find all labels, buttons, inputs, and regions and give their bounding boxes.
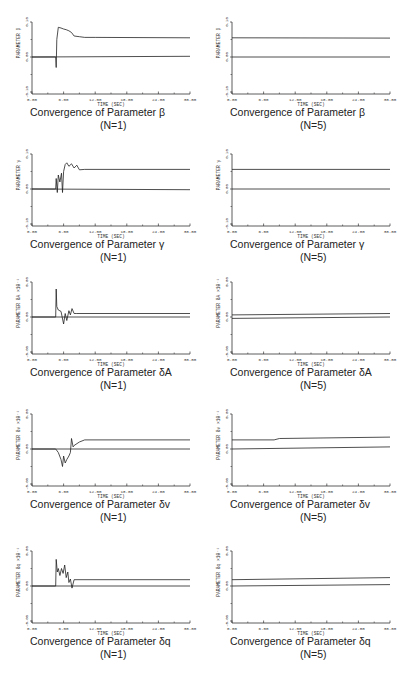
series-line-estimate: [32, 289, 190, 324]
x-tick-label: 24.00: [352, 627, 365, 631]
chart-svg: 0.006.0012.0018.0024.0030.00-0.100.000.1…: [208, 8, 397, 108]
chart-n-label: (N=1): [100, 119, 165, 131]
chart-svg: 0.006.0012.0018.0024.0030.00-5.000.005.0…: [208, 268, 397, 368]
x-tick-label: 30.00: [184, 98, 197, 102]
y-tick-label: 5.00: [25, 409, 29, 419]
x-tick-label: 6.00: [259, 490, 270, 494]
y-tick-label: -5.00: [25, 614, 29, 627]
y-tick-label: 0.00: [225, 184, 229, 194]
chart-panel: 0.006.0012.0018.0024.0030.00-5.000.005.0…: [8, 268, 198, 398]
y-tick-label: -5.00: [25, 477, 29, 490]
chart-title: Convergence of Parameter γ(N=1): [30, 238, 164, 263]
y-tick-label: -5.00: [25, 345, 29, 358]
y-tick-label: 0.00: [225, 581, 229, 591]
chart-n-label: (N=5): [300, 511, 370, 523]
x-tick-label: 6.00: [59, 98, 70, 102]
chart-n-label: (N=5): [300, 379, 372, 391]
x-tick-label: 24.00: [352, 358, 365, 362]
chart-title: Convergence of Parameter δq(N=1): [30, 635, 171, 660]
x-tick-label: 30.00: [384, 358, 397, 362]
chart-title: Convergence of Parameter β(N=5): [230, 106, 365, 131]
chart-panel: 0.006.0012.0018.0024.0030.00-5.000.005.0…: [208, 400, 397, 530]
y-tick-label: -5.00: [225, 345, 229, 358]
y-tick-label: 5.00: [225, 277, 229, 287]
x-tick-label: 24.00: [152, 490, 165, 494]
x-tick-label: 24.00: [352, 98, 365, 102]
chart-n-label: (N=1): [100, 511, 170, 523]
y-tick-label: 5.00: [25, 277, 29, 287]
chart-title: Convergence of Parameter δq(N=5): [230, 635, 371, 660]
series-line-reference: [232, 585, 390, 586]
series-line-estimate: [232, 578, 390, 580]
chart-svg: 0.006.0012.0018.0024.0030.00-0.100.000.1…: [8, 140, 198, 240]
x-tick-label: 6.00: [259, 230, 270, 234]
x-tick-label: 24.00: [152, 98, 165, 102]
x-tick-label: 6.00: [259, 627, 270, 631]
y-tick-label: 0.10: [25, 17, 29, 27]
chart-title-text: Convergence of Parameter δq: [230, 635, 371, 647]
chart-title-text: Convergence of Parameter γ: [230, 238, 364, 250]
y-tick-label: 0.10: [225, 149, 229, 159]
chart-svg: 0.006.0012.0018.0024.0030.00-5.000.005.0…: [8, 268, 198, 368]
y-tick-label: 0.00: [25, 312, 29, 322]
y-axis-label: PARAMETER δq ×10⁻¹: [216, 547, 221, 597]
chart-title: Convergence of Parameter δA(N=1): [30, 366, 172, 391]
x-tick-label: 6.00: [59, 490, 70, 494]
x-tick-label: 30.00: [184, 230, 197, 234]
series-line-estimate: [232, 437, 390, 440]
chart-n-label: (N=5): [300, 251, 364, 263]
y-tick-label: -0.10: [225, 217, 229, 230]
x-tick-label: 30.00: [184, 490, 197, 494]
x-tick-label: 6.00: [59, 230, 70, 234]
y-axis-label: PARAMETER δA ×10⁻¹: [216, 278, 221, 328]
series-line-estimate: [32, 163, 190, 193]
x-tick-label: 30.00: [184, 358, 197, 362]
y-axis-label: PARAMETER β: [216, 28, 221, 59]
y-tick-label: -5.00: [225, 614, 229, 627]
y-axis-label: PARAMETER γ: [16, 160, 21, 191]
y-tick-label: 0.00: [225, 52, 229, 62]
chart-title: Convergence of Parameter δv(N=1): [30, 498, 170, 523]
chart-title: Convergence of Parameter γ(N=5): [230, 238, 364, 263]
series-line-estimate: [32, 27, 190, 67]
x-tick-label: 24.00: [152, 230, 165, 234]
y-axis-label: PARAMETER δv ×10⁻¹: [16, 410, 21, 460]
chart-svg: 0.006.0012.0018.0024.0030.00-0.100.000.1…: [8, 8, 198, 108]
y-axis-label: PARAMETER β: [16, 28, 21, 59]
y-tick-label: 0.00: [25, 444, 29, 454]
x-tick-label: 30.00: [384, 230, 397, 234]
y-axis-label: PARAMETER δv ×10⁻¹: [216, 410, 221, 460]
series-line-estimate: [32, 559, 190, 588]
chart-svg: 0.006.0012.0018.0024.0030.00-0.100.000.1…: [208, 140, 397, 240]
chart-n-label: (N=5): [300, 119, 365, 131]
chart-n-label: (N=5): [300, 648, 371, 660]
y-tick-label: -0.10: [225, 85, 229, 98]
chart-title-text: Convergence of Parameter δv: [30, 498, 170, 510]
chart-title: Convergence of Parameter δA(N=5): [230, 366, 372, 391]
x-tick-label: 24.00: [152, 358, 165, 362]
chart-title-text: Convergence of Parameter δA: [230, 366, 372, 378]
x-tick-label: 30.00: [184, 627, 197, 631]
y-tick-label: -5.00: [225, 477, 229, 490]
y-tick-label: 0.00: [225, 312, 229, 322]
y-tick-label: 0.00: [25, 581, 29, 591]
chart-n-label: (N=1): [100, 379, 172, 391]
y-tick-label: 0.00: [25, 52, 29, 62]
chart-title-text: Convergence of Parameter δq: [30, 635, 171, 647]
series-line-reference: [32, 189, 190, 190]
y-tick-label: 0.10: [25, 149, 29, 159]
chart-n-label: (N=1): [100, 648, 171, 660]
x-tick-label: 6.00: [259, 358, 270, 362]
chart-panel: 0.006.0012.0018.0024.0030.00-0.100.000.1…: [8, 140, 198, 270]
x-tick-label: 30.00: [384, 98, 397, 102]
series-line-estimate: [232, 314, 390, 315]
chart-svg: 0.006.0012.0018.0024.0030.00-5.000.005.0…: [8, 400, 198, 500]
series-line-reference: [232, 317, 390, 318]
series-line-reference: [32, 56, 190, 57]
y-axis-label: PARAMETER γ: [216, 160, 221, 191]
chart-panel: 0.006.0012.0018.0024.0030.00-5.000.005.0…: [8, 400, 198, 530]
y-tick-label: 5.00: [225, 546, 229, 556]
y-tick-label: 5.00: [225, 409, 229, 419]
series-line-reference: [232, 447, 390, 449]
x-tick-label: 6.00: [59, 358, 70, 362]
